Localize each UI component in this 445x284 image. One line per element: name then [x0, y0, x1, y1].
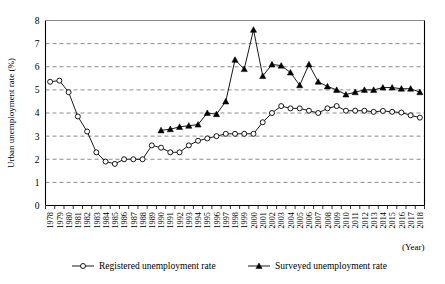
data-point-marker-triangle — [306, 61, 312, 67]
data-point-marker-open-circle — [75, 114, 80, 119]
data-point-marker-open-circle — [380, 108, 385, 113]
data-point-marker-triangle — [324, 83, 330, 89]
data-point-marker-open-circle — [362, 108, 367, 113]
x-tick-label-2010: 2010 — [342, 212, 351, 229]
legend-label: Registered unemployment rate — [99, 261, 216, 271]
x-tick-label-2012: 2012 — [361, 212, 370, 229]
x-tick-label-1992: 1992 — [176, 212, 185, 229]
x-tick-label-2005: 2005 — [296, 212, 305, 229]
data-point-marker-open-circle — [297, 106, 302, 111]
x-tick-label-2003: 2003 — [277, 212, 286, 229]
data-point-marker-open-circle — [399, 110, 404, 115]
x-tick-label-2008: 2008 — [324, 212, 333, 229]
data-point-marker-open-circle — [417, 115, 422, 120]
x-tick-label-1988: 1988 — [139, 212, 148, 229]
data-point-marker-open-circle — [269, 111, 274, 116]
data-point-marker-triangle — [315, 79, 321, 85]
data-point-marker-open-circle — [306, 108, 311, 113]
x-tick-label-1984: 1984 — [102, 211, 111, 228]
data-point-marker-open-circle — [242, 131, 247, 136]
series-polyline — [161, 30, 420, 131]
data-point-marker-open-circle — [408, 113, 413, 118]
data-point-marker-open-circle — [159, 145, 164, 150]
x-tick-label-1991: 1991 — [166, 212, 175, 229]
x-tick-label-2017: 2017 — [407, 212, 416, 229]
x-tick-label-1981: 1981 — [74, 212, 83, 229]
y-tick-label-6: 6 — [35, 62, 40, 72]
line-chart-svg: 012345678 197819791980198119821983198419… — [0, 0, 445, 284]
x-tick-label-1994: 1994 — [194, 211, 203, 228]
data-point-marker-open-circle — [140, 157, 145, 162]
data-point-marker-open-circle — [214, 134, 219, 139]
x-tick-label-1989: 1989 — [148, 212, 157, 229]
x-tick-label-2013: 2013 — [370, 212, 379, 229]
data-point-marker-open-circle — [205, 136, 210, 141]
x-tick-label-2014: 2014 — [379, 211, 388, 228]
x-tick-label-2001: 2001 — [259, 212, 268, 229]
data-point-marker-open-circle — [122, 157, 127, 162]
data-point-marker-open-circle — [260, 120, 265, 125]
x-tick-label-2007: 2007 — [314, 212, 323, 229]
y-tick-labels-group: 012345678 — [35, 16, 40, 211]
legend-label: Surveyed unemployment rate — [275, 261, 387, 271]
x-axis-unit-label: (Year) — [402, 242, 425, 252]
data-point-marker-open-circle — [390, 109, 395, 114]
y-tick-label-1: 1 — [35, 178, 40, 188]
data-point-marker-open-circle — [57, 78, 62, 83]
x-tick-label-1985: 1985 — [111, 212, 120, 229]
data-point-marker-open-circle — [316, 111, 321, 116]
series-surveyed — [158, 27, 423, 133]
data-point-marker-open-circle — [288, 106, 293, 111]
data-point-marker-open-circle — [325, 106, 330, 111]
x-tick-label-2016: 2016 — [398, 212, 407, 229]
data-point-marker-open-circle — [251, 131, 256, 136]
data-point-marker-triangle — [223, 98, 229, 104]
data-point-marker-open-circle — [353, 108, 358, 113]
y-axis-title: Urban unemployment rate (%) — [6, 58, 16, 168]
x-tick-label-1997: 1997 — [222, 212, 231, 229]
data-point-marker-triangle — [269, 61, 275, 67]
chart-figure: 012345678 197819791980198119821983198419… — [0, 0, 445, 284]
data-point-marker-open-circle — [186, 143, 191, 148]
data-point-marker-open-circle — [103, 159, 108, 164]
y-tick-label-8: 8 — [35, 16, 40, 26]
data-point-marker-open-circle — [112, 161, 117, 166]
data-point-marker-open-circle — [66, 90, 71, 95]
x-tick-label-1995: 1995 — [203, 212, 212, 229]
x-tick-label-1987: 1987 — [130, 212, 139, 229]
x-tick-label-2011: 2011 — [351, 212, 360, 228]
y-tick-label-3: 3 — [35, 132, 40, 142]
x-tick-label-1980: 1980 — [65, 212, 74, 229]
legend-item-registered[interactable]: Registered unemployment rate — [72, 261, 216, 271]
x-tick-label-2002: 2002 — [268, 212, 277, 229]
y-tick-label-2: 2 — [35, 155, 40, 165]
data-point-marker-triangle — [250, 27, 256, 33]
data-point-marker-open-circle — [85, 129, 90, 134]
y-tick-label-5: 5 — [35, 85, 40, 95]
data-point-marker-open-circle — [371, 109, 376, 114]
x-tick-label-1986: 1986 — [120, 212, 129, 229]
x-tick-label-1979: 1979 — [56, 212, 65, 229]
x-tick-label-2009: 2009 — [333, 212, 342, 229]
data-point-marker-open-circle — [196, 138, 201, 143]
x-tick-label-2004: 2004 — [287, 211, 296, 228]
x-tick-label-1999: 1999 — [240, 212, 249, 229]
x-tick-label-1978: 1978 — [46, 212, 55, 229]
x-tick-label-1990: 1990 — [157, 212, 166, 229]
x-tick-label-1996: 1996 — [213, 212, 222, 229]
data-point-marker-open-circle — [94, 150, 99, 155]
data-point-marker-triangle — [232, 57, 238, 63]
legend-item-surveyed[interactable]: Surveyed unemployment rate — [248, 261, 387, 271]
data-point-marker-open-circle — [149, 143, 154, 148]
x-tick-label-2006: 2006 — [305, 212, 314, 229]
series-polyline — [50, 81, 420, 164]
x-tick-labels-group: 1978197919801981198219831984198519861987… — [46, 211, 425, 228]
legend-group: Registered unemployment rateSurveyed une… — [72, 261, 387, 271]
data-point-marker-open-circle — [131, 157, 136, 162]
x-tick-label-1993: 1993 — [185, 212, 194, 229]
x-tick-label-1983: 1983 — [93, 212, 102, 229]
x-tick-label-2015: 2015 — [388, 212, 397, 229]
y-tick-label-7: 7 — [35, 39, 40, 49]
x-tick-label-1998: 1998 — [231, 212, 240, 229]
y-tick-label-0: 0 — [35, 201, 40, 211]
